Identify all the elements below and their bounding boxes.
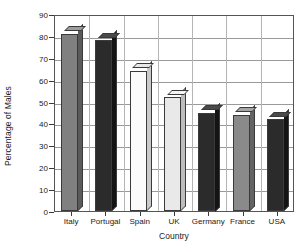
y-tick-label: 10: [26, 186, 48, 195]
y-tick-label: 60: [26, 76, 48, 85]
y-tick-label: 0: [26, 208, 48, 217]
bar-side-face: [215, 103, 220, 212]
x-tick-mark: [105, 212, 106, 216]
category-separator: [261, 16, 262, 211]
bar-side-face: [112, 30, 117, 211]
bar-side-face: [250, 105, 255, 211]
bar-spain[interactable]: [130, 66, 147, 211]
y-tick-label: 80: [26, 32, 48, 41]
bar-uk[interactable]: [164, 92, 181, 211]
bar-usa[interactable]: [267, 114, 284, 211]
x-tick-mark: [277, 212, 278, 216]
x-tick-mark: [174, 212, 175, 216]
x-tick-mark: [71, 212, 72, 216]
bar-front-face: [95, 40, 112, 211]
gridline: [55, 38, 293, 39]
bar-side-face: [78, 24, 83, 211]
x-tick-mark: [243, 212, 244, 216]
x-tick-label: Spain: [129, 217, 149, 227]
x-axis-tick-labels: ItalyPortugalSpainUKGermanyFranceUSA: [54, 217, 294, 231]
y-tick-label: 90: [26, 11, 48, 20]
bar-italy[interactable]: [61, 29, 78, 211]
bar-portugal[interactable]: [95, 35, 112, 211]
gridline: [55, 60, 293, 61]
x-tick-label: Germany: [192, 217, 225, 227]
bar-front-face: [198, 113, 215, 212]
y-axis-tick-labels: 0102030405060708090: [26, 10, 48, 216]
y-tick-label: 70: [26, 54, 48, 63]
category-separator: [226, 16, 227, 211]
bar-front-face: [164, 97, 181, 211]
bar-front-face: [130, 71, 147, 211]
x-tick-label: France: [230, 217, 255, 227]
bar-chart: Percentage of Males 0102030405060708090 …: [0, 0, 302, 252]
x-tick-label: USA: [269, 217, 285, 227]
plot-area: [54, 15, 294, 212]
category-separator: [158, 16, 159, 211]
bar-germany[interactable]: [198, 108, 215, 212]
x-tick-mark: [140, 212, 141, 216]
bar-front-face: [267, 119, 284, 211]
bar-side-face: [181, 87, 186, 211]
x-tick-mark: [208, 212, 209, 216]
y-tick-label: 30: [26, 142, 48, 151]
x-tick-label: Italy: [64, 217, 79, 227]
bar-france[interactable]: [233, 110, 250, 211]
bar-side-face: [284, 109, 289, 211]
category-separator: [192, 16, 193, 211]
x-axis-title: Country: [54, 231, 294, 241]
x-tick-label: UK: [168, 217, 179, 227]
category-separator: [124, 16, 125, 211]
y-tick-label: 20: [26, 164, 48, 173]
bar-front-face: [61, 34, 78, 211]
category-separator: [89, 16, 90, 211]
gridline: [55, 82, 293, 83]
bar-front-face: [233, 115, 250, 211]
bar-side-face: [147, 61, 152, 211]
x-tick-label: Portugal: [91, 217, 121, 227]
y-tick-label: 40: [26, 120, 48, 129]
y-axis-title: Percentage of Males: [0, 0, 16, 252]
y-tick-label: 50: [26, 98, 48, 107]
